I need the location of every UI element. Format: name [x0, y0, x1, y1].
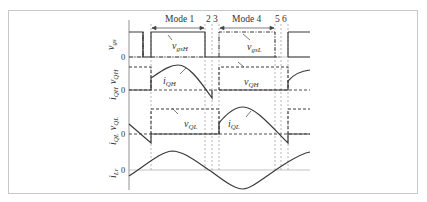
waveform-figure: Mode 1 2 3 Mode 4 5 6 0 vgs vgsH vgsL 0 — [0, 0, 427, 202]
figure-frame — [9, 11, 418, 194]
qh-zero-label: 0 — [121, 85, 125, 95]
mode-4-label: Mode 4 — [232, 14, 262, 24]
mode-6-label: 6 — [282, 14, 287, 24]
ql-zero-label: 0 — [121, 129, 125, 139]
mode-3-label: 3 — [213, 14, 218, 24]
mode-5-label: 5 — [275, 14, 280, 24]
mode-1-label: Mode 1 — [165, 14, 195, 24]
vgs-zero-label: 0 — [121, 52, 125, 62]
ilr-zero-label: 0 — [121, 165, 125, 175]
mode-2-label: 2 — [206, 14, 211, 24]
